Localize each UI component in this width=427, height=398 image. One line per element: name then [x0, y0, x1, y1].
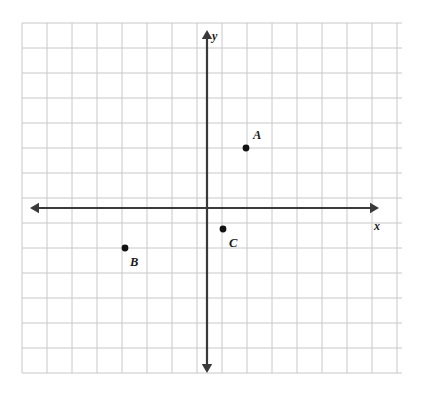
point-marker-c[interactable]: [220, 226, 227, 233]
point-marker-b[interactable]: [122, 245, 129, 252]
y-axis-label: y: [210, 29, 218, 43]
point-marker-a[interactable]: [243, 145, 250, 152]
point-label-c: C: [229, 236, 238, 250]
point-label-b: B: [129, 255, 138, 269]
point-label-a: A: [252, 128, 261, 142]
figure-background: [0, 0, 427, 398]
x-axis-label: x: [373, 219, 380, 233]
coordinate-plane-figure: x y ABC: [0, 0, 427, 398]
coordinate-plane-canvas: x y ABC: [0, 0, 427, 398]
